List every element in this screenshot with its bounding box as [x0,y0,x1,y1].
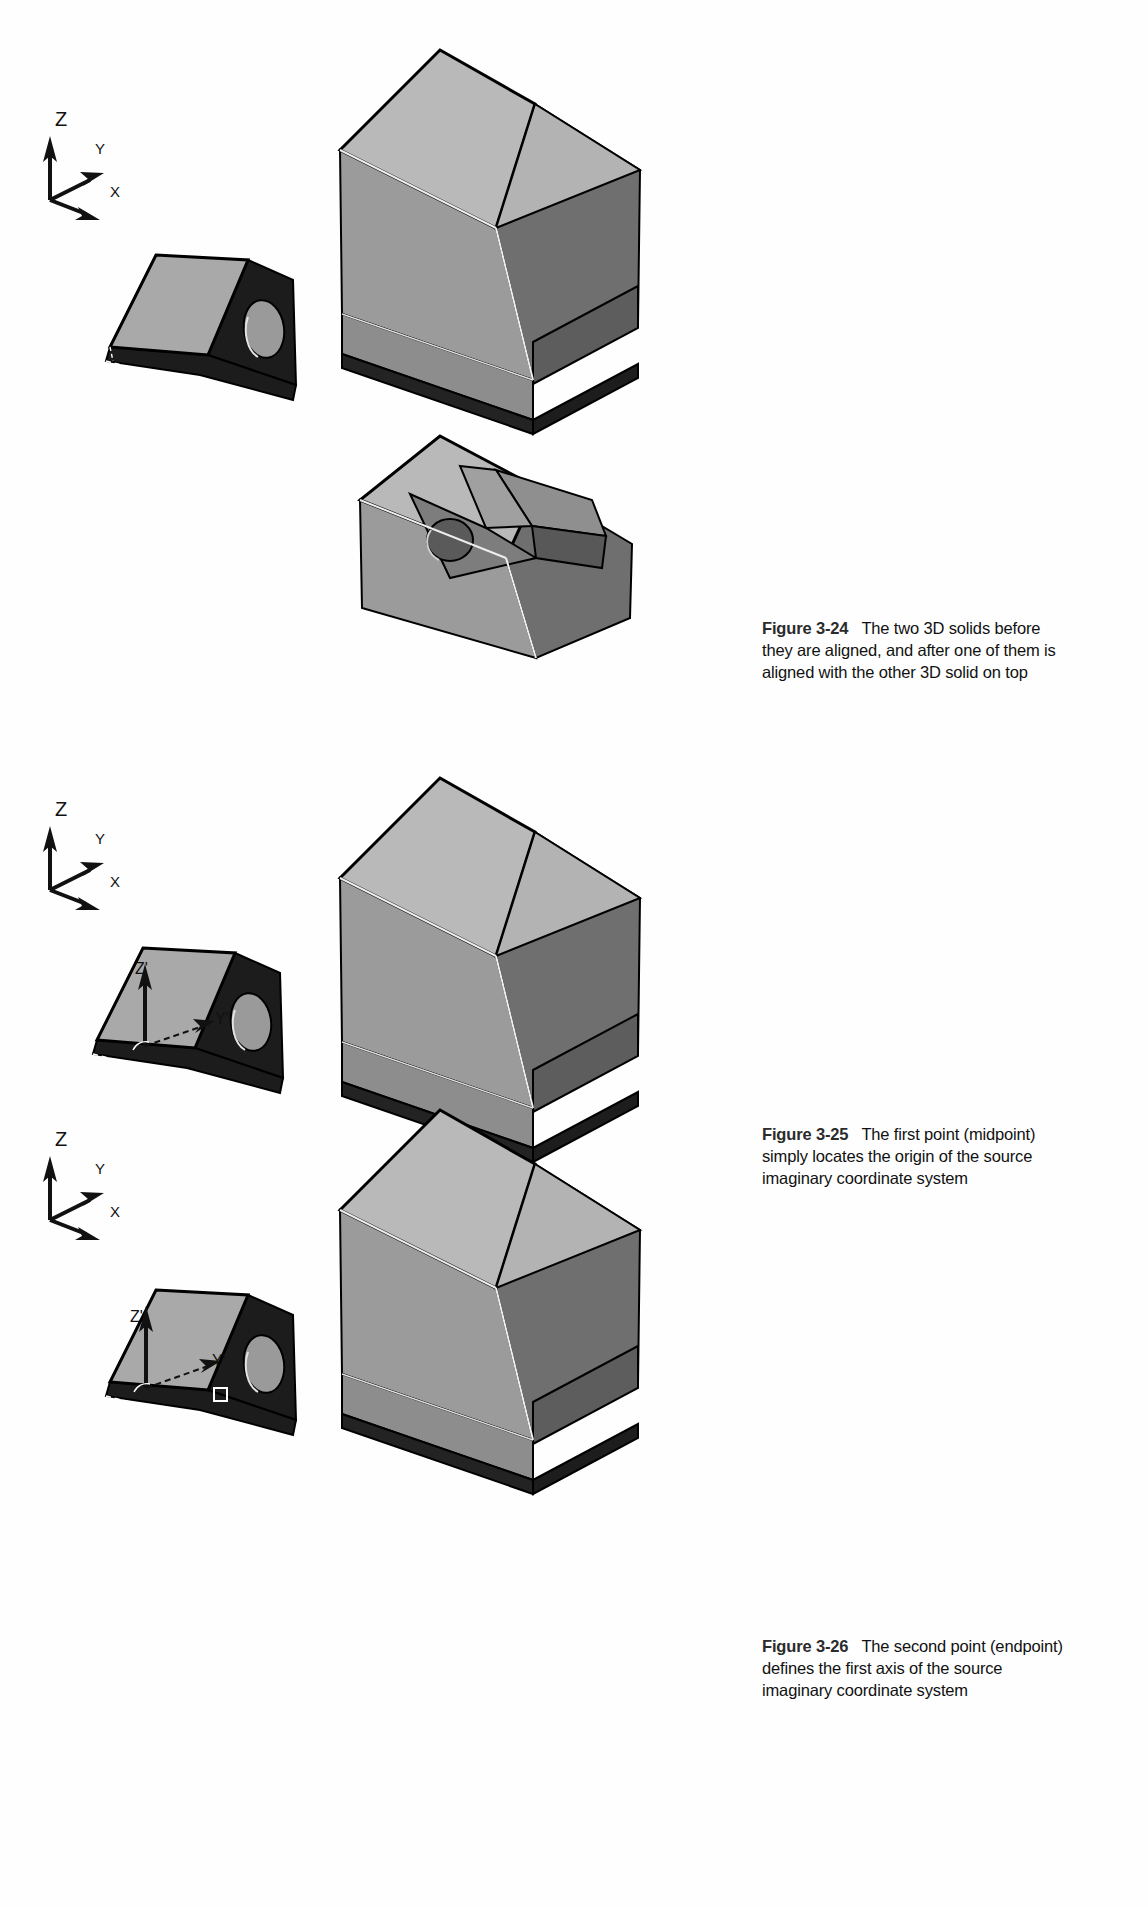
coordinate-triad-3 [28,1130,168,1240]
axis-arrow-z-icon [43,826,57,890]
axis-label-y-1: Y [95,140,105,157]
primed-label-z-2: Z' [135,960,148,978]
coordinate-triad-1 [28,110,168,220]
axis-arrow-z-icon [43,136,57,200]
axis-label-x-3: X [110,1203,120,1220]
axis-arrow-y-icon [50,172,104,200]
axis-label-z-2: Z [55,798,67,821]
axis-arrow-x-icon [50,890,100,910]
axis-label-z-3: Z [55,1128,67,1151]
caption-figure-3-26: Figure 3-26The second point (endpoint) d… [762,1636,1070,1702]
coordinate-triad-2 [28,800,168,910]
primed-label-y-2: Y' [215,1010,229,1028]
textbook-page: Z Y X [0,0,1148,1907]
composite-solid-aligned [300,408,660,668]
caption-number-3-25: Figure 3-25 [762,1125,848,1143]
axis-label-x-1: X [110,183,120,200]
figure-3-24-artwork: Z Y X [0,0,740,660]
axis-arrow-x-icon [50,1220,100,1240]
primed-label-y-3: Y' [212,1352,226,1370]
caption-figure-3-24: Figure 3-24The two 3D solids before they… [762,618,1070,684]
axis-label-y-2: Y [95,830,105,847]
axis-label-y-3: Y [95,1160,105,1177]
bracket-solid-1 [320,42,670,442]
axis-arrow-y-icon [50,1192,104,1220]
axis-arrow-y-icon [50,862,104,890]
axis-arrow-x-icon [50,200,100,220]
axis-label-x-2: X [110,873,120,890]
axis-label-z-1: Z [55,108,67,131]
through-hole-icon [427,519,473,561]
caption-number-3-24: Figure 3-24 [762,619,848,637]
primed-label-z-3: Z' [130,1308,143,1326]
caption-figure-3-25: Figure 3-25The first point (midpoint) si… [762,1124,1070,1190]
bracket-solid-3 [320,1102,670,1502]
figure-3-26-artwork: Z Y X Z' Y' [0,1090,740,1530]
caption-number-3-26: Figure 3-26 [762,1637,848,1655]
axis-arrow-z-icon [43,1156,57,1220]
